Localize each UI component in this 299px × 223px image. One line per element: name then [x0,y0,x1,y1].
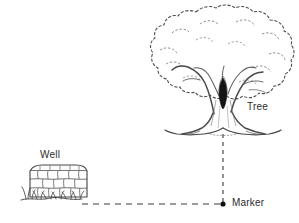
canopy-texture-9 [196,38,213,42]
canopy-texture-10 [228,42,245,46]
well-illustration [21,165,87,200]
branch-right-twig [249,90,266,93]
branch-right-lateral [244,81,263,84]
capstone-outline [30,165,87,171]
branch-left-upper [194,68,219,96]
canopy-texture-1 [172,29,189,33]
marker-label: Marker [232,197,264,208]
canopy-texture-6 [269,53,285,60]
tree-label: Tree [247,101,268,112]
well-capstone [30,165,87,171]
canopy-texture-8 [252,66,271,72]
well-label: Well [40,149,60,160]
trunk-bark-4 [227,106,229,128]
marker-dot [220,201,225,206]
canopy-texture-2 [200,21,219,25]
trunk-bark-3 [218,106,220,128]
diagram-canvas: Well Tree Marker [0,0,299,223]
trunk-left-contour [182,113,213,134]
branch-left-lateral [183,79,200,81]
canopy-texture-4 [262,33,279,40]
trunk-right-contour [232,112,265,134]
measurement-lines [82,134,223,204]
grass-ground-line [21,198,82,200]
grass-blade-1 [22,187,26,199]
tree-illustration [151,5,294,136]
canopy-texture-3 [236,20,255,26]
canopy-texture-5 [160,48,177,53]
